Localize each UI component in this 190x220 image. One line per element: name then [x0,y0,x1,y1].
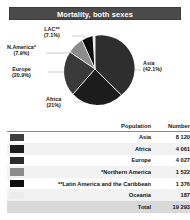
pie-label-africa-pct: (21%) [46,102,61,108]
table-cell-number: 187 [156,189,190,201]
legend-color-swatch [10,134,24,142]
chart-title-bar: Mortality, both sexes [9,7,181,20]
table-cell-label: Europe [33,155,156,167]
legend-swatch-cell [7,189,33,201]
data-table: Population Number Asia 8 120 Africa [7,120,190,213]
table-cell-number: 4 061 [156,143,190,155]
table-row: Asia 8 120 [7,131,190,143]
table-total-row: Total 19 293 [7,201,190,213]
pie-label-asia: Asia (42.1%) [143,60,162,73]
pie-label-europe: Europe (20.9%) [12,66,31,79]
legend-swatch-cell [7,178,33,190]
table-cell-number: 1 376 [156,178,190,190]
legend-color-swatch [10,157,24,165]
table-cell-label: Africa [33,143,156,155]
table-cell-label: *Northern America [33,166,156,178]
table-total-number: 19 293 [156,201,190,213]
table-cell-label: **Latin America and the Caribbean [33,178,156,190]
pie-label-north-america: N.America* (7.9%) [7,44,36,57]
pie-label-africa: Africa (21%) [46,96,61,109]
table-header-swatch [7,120,33,131]
legend-color-swatch [10,145,24,153]
legend-swatch-cell [7,131,33,143]
table-header-number: Number [156,120,190,131]
table-body: Asia 8 120 Africa 4 061 Europe 4 027 [7,131,190,213]
legend-swatch-cell [7,155,33,167]
legend-swatch-cell [7,166,33,178]
legend-color-swatch [10,180,24,188]
pie-chart-area: LAC** (7.1%) N.America* (7.9%) Europe (2… [0,22,190,118]
pie-label-asia-pct: (42.1%) [143,66,162,72]
legend-color-swatch [10,168,24,176]
mortality-chart-panel: Mortality, both sexes [0,0,190,220]
table-total-label: Total [33,201,156,213]
total-swatch-cell [7,201,33,213]
legend-swatch-cell [7,143,33,155]
table-row: *Northern America 1 522 [7,166,190,178]
table-cell-label: Asia [33,131,156,143]
table-header-row: Population Number [7,120,190,131]
pie-label-lac: LAC** (7.1%) [44,26,60,39]
page-title: Mortality, both sexes [10,9,180,20]
table-cell-number: 4 027 [156,155,190,167]
table-row: Africa 4 061 [7,143,190,155]
legend-color-swatch [10,192,24,200]
pie-label-lac-pct: (7.1%) [44,32,60,38]
table-cell-label: Oceania [33,189,156,201]
table-header-population: Population [33,120,156,131]
pie-label-europe-pct: (20.9%) [12,72,31,78]
table-cell-number: 1 522 [156,166,190,178]
table-row: **Latin America and the Caribbean 1 376 [7,178,190,190]
legend-data-table: Population Number Asia 8 120 Africa [7,120,183,215]
table-cell-number: 8 120 [156,131,190,143]
pie-label-north-america-pct: (7.9%) [7,50,36,56]
table-row: Oceania 187 [7,189,190,201]
table-row: Europe 4 027 [7,155,190,167]
pie-slices [64,35,135,105]
